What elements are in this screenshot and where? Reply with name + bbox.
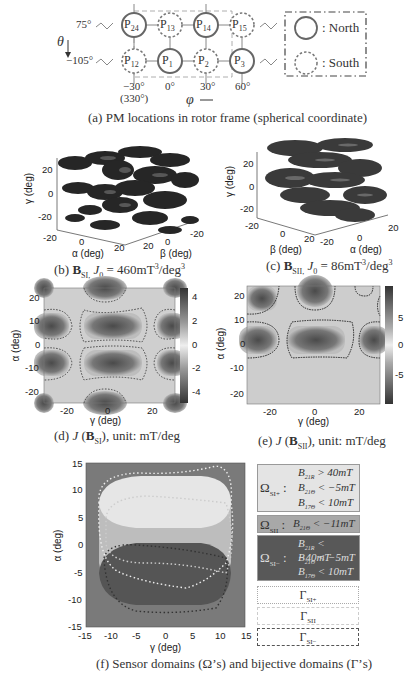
e-cbar-0: 0 bbox=[398, 339, 403, 350]
d-cbar-neg4: -4 bbox=[192, 386, 200, 397]
f-xtick-neg5: -5 bbox=[132, 630, 140, 641]
d-xtick-neg20: -20 bbox=[60, 405, 74, 416]
f-ytick-neg5: -5 bbox=[74, 567, 82, 578]
d-ytick-10: 10 bbox=[29, 315, 40, 326]
e-ytick-0: 0 bbox=[240, 338, 245, 349]
d-cbar-2: 2 bbox=[192, 315, 197, 326]
pm-label-p1: P1 bbox=[162, 53, 173, 69]
theta-bottom-label: −105° bbox=[66, 54, 93, 66]
d-cbar-0: 0 bbox=[192, 339, 197, 350]
c-btick-20: 20 bbox=[304, 233, 315, 244]
b-ytick-neg20: -20 bbox=[38, 211, 52, 222]
f-ytick-10: 10 bbox=[72, 484, 83, 495]
pm-label-p2: P2 bbox=[198, 53, 209, 69]
d-xtick-20: 20 bbox=[147, 405, 158, 416]
caption-d: (d) J (BSI), unit: mT/deg bbox=[54, 428, 180, 446]
e-xlabel: γ (deg) bbox=[298, 416, 329, 427]
e-xtick-neg20: -20 bbox=[263, 406, 277, 417]
phi-tick-0: 0° bbox=[165, 80, 175, 92]
c-zlabel: β (deg) bbox=[270, 244, 302, 255]
e-ylabel: α (deg) bbox=[215, 328, 226, 360]
f-xtick-neg15: -15 bbox=[78, 630, 92, 641]
pm-label-p14: P14 bbox=[196, 17, 211, 33]
c-atick-0: 0 bbox=[357, 232, 362, 243]
c-xlabel: α (deg) bbox=[350, 244, 382, 255]
c-ytick-0: 0 bbox=[249, 181, 254, 192]
caption-a: (a) PM locations in rotor frame (spheric… bbox=[88, 110, 367, 126]
e-ytick-10: 10 bbox=[234, 314, 245, 325]
f-xtick-10: 10 bbox=[215, 630, 226, 641]
legend-south-label: : South bbox=[322, 55, 359, 71]
d-cbar-neg2: -2 bbox=[192, 362, 200, 373]
theta-symbol: θ bbox=[57, 34, 64, 50]
b-ztick-20: 20 bbox=[143, 240, 154, 251]
f-ylabel: α (deg) bbox=[52, 530, 63, 562]
phi-tick-neg30: −30° bbox=[123, 80, 145, 92]
c-btick-neg20: -20 bbox=[245, 220, 259, 231]
legend-omega-si-minus: ΩSI− : B21R < −40mT B21Θ < −5mT B17Θ < 1… bbox=[257, 535, 360, 581]
f-ytick-neg10: -10 bbox=[68, 594, 82, 605]
legend-omega-sii: ΩSII : B21Θ < −11mT bbox=[257, 515, 360, 533]
b-xtick-0: 0 bbox=[79, 236, 84, 247]
d-ytick-0: 0 bbox=[35, 339, 40, 350]
b-ylabel: γ (deg) bbox=[23, 173, 34, 204]
e-cbar-neg5: -5 bbox=[395, 369, 403, 380]
b-zlabel: β (deg) bbox=[160, 248, 192, 259]
legend-omega-si-plus: ΩSI+ : B21R > 40mT B21Θ < −5mT B17Θ < 10… bbox=[257, 464, 360, 512]
theta-top-label: 75° bbox=[76, 18, 91, 30]
caption-b: (b) BSI, J0 = 460mT3/deg3 bbox=[54, 262, 185, 280]
legend-gamma-sii: ΓSII bbox=[257, 607, 359, 625]
b-ytick-20: 20 bbox=[42, 164, 53, 175]
caption-c: (c) BSII, J0 = 86mT3/deg3 bbox=[266, 258, 392, 276]
c-atick-neg20: -20 bbox=[320, 236, 334, 247]
b-xtick-20: 20 bbox=[114, 242, 125, 253]
phi-symbol: φ bbox=[186, 92, 194, 108]
pm-label-p13: P13 bbox=[160, 17, 175, 33]
d-ylabel: α (deg) bbox=[10, 330, 21, 362]
legend-gamma-si-plus: ΓSI+ bbox=[257, 586, 359, 604]
b-ztick-0: 0 bbox=[165, 236, 170, 247]
f-xtick-5: 5 bbox=[190, 630, 195, 641]
e-ytick-neg10: -10 bbox=[230, 362, 244, 373]
f-ytick-0: 0 bbox=[78, 539, 83, 550]
b-xlabel: α (deg) bbox=[72, 248, 104, 259]
d-ytick-20: 20 bbox=[29, 292, 40, 303]
d-ytick-neg20: -20 bbox=[25, 386, 39, 397]
phi-tick-60: 60° bbox=[235, 80, 250, 92]
f-xtick-15: 15 bbox=[241, 630, 252, 641]
e-ytick-20: 20 bbox=[234, 290, 245, 301]
f-ytick-5: 5 bbox=[78, 512, 83, 523]
f-xtick-neg10: -10 bbox=[104, 630, 118, 641]
heatmap-e bbox=[247, 286, 407, 404]
d-xlabel: γ (deg) bbox=[90, 415, 121, 426]
pm-label-p24: P24 bbox=[124, 17, 139, 33]
domain-plot-f bbox=[86, 463, 246, 627]
b-ytick-0: 0 bbox=[48, 188, 53, 199]
c-ytick-20: 20 bbox=[243, 158, 254, 169]
f-xlabel: γ (deg) bbox=[150, 642, 181, 653]
b-xtick-neg20: -20 bbox=[43, 232, 57, 243]
e-ytick-neg20: -20 bbox=[230, 388, 244, 399]
phi-tick-30: 30° bbox=[200, 80, 215, 92]
e-xtick-20: 20 bbox=[354, 406, 365, 417]
c-btick-0: 0 bbox=[280, 228, 285, 239]
c-atick-20: 20 bbox=[388, 222, 399, 233]
phi-tick-330: (330°) bbox=[120, 92, 148, 104]
c-ytick-neg20: -20 bbox=[240, 203, 254, 214]
pm-label-p3: P3 bbox=[234, 53, 245, 69]
d-ytick-neg10: -10 bbox=[25, 362, 39, 373]
legend-gamma-si-minus: ΓSI− bbox=[257, 628, 359, 646]
caption-f: (f) Sensor domains (Ω’s) and bijective d… bbox=[96, 656, 372, 672]
f-xtick-0: 0 bbox=[163, 630, 168, 641]
heatmap-d bbox=[44, 288, 194, 403]
legend-north-label: : North bbox=[322, 20, 359, 36]
d-cbar-4: 4 bbox=[192, 291, 197, 302]
caption-e: (e) J (BSII), unit: mT/deg bbox=[258, 433, 386, 451]
c-ylabel: γ (deg) bbox=[224, 166, 235, 197]
pm-label-p15: P15 bbox=[232, 17, 247, 33]
e-cbar-5: 5 bbox=[398, 312, 403, 323]
f-ytick-15: 15 bbox=[72, 458, 83, 469]
pm-label-p12: P12 bbox=[124, 53, 139, 69]
